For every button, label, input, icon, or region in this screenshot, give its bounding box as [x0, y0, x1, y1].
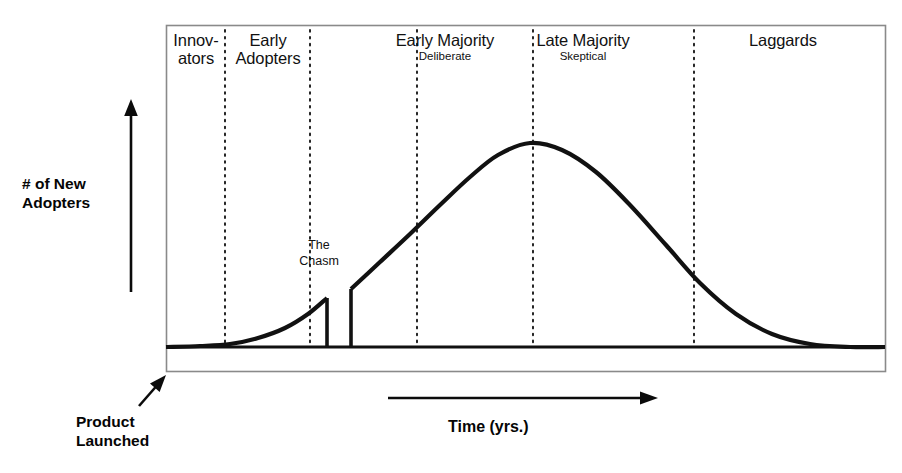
product-launched-arrow: [139, 375, 166, 406]
segment-label-early-adopters: Early Adopters: [218, 31, 318, 68]
segment-sublabel-early-majority: Deliberate: [365, 50, 525, 63]
adoption-curve: [166, 143, 885, 347]
segment-label-late-majority-text: Late Majority: [508, 31, 658, 49]
diagram-canvas: Innov- ators Early Adopters Early Majori…: [0, 0, 902, 473]
segment-sublabel-late-majority: Skeptical: [508, 50, 658, 63]
segment-label-early-adopters-text: Early Adopters: [218, 31, 318, 68]
segment-label-early-majority-text: Early Majority: [365, 31, 525, 49]
y-axis-label: # of New Adopters: [22, 175, 130, 213]
segment-label-laggards: Laggards: [713, 31, 853, 49]
segment-label-late-majority: Late Majority Skeptical: [508, 31, 658, 63]
curve-early-segment: [166, 298, 327, 347]
adoption-lifecycle-svg: [0, 0, 902, 473]
x-axis-arrow: [388, 391, 658, 404]
product-launched-label: Product Launched: [76, 413, 216, 451]
chart-frame: [167, 26, 886, 372]
segment-label-laggards-text: Laggards: [713, 31, 853, 49]
x-axis-label: Time (yrs.): [448, 418, 529, 436]
curve-majority-bell: [351, 143, 885, 347]
chasm-label: The Chasm: [283, 238, 355, 269]
segment-label-early-majority: Early Majority Deliberate: [365, 31, 525, 63]
